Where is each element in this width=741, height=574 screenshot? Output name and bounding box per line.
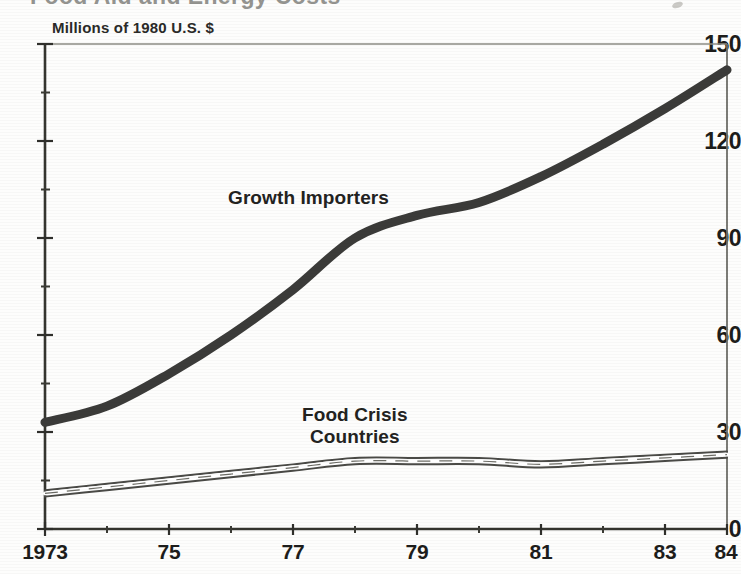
series-band-food-crisis-countries bbox=[45, 451, 727, 496]
plot-area bbox=[0, 0, 741, 574]
series-line-growth-importers bbox=[45, 70, 727, 422]
food-crisis-lower-edge bbox=[45, 458, 727, 497]
chart-figure: Food Aid and Energy Costs Millions of 19… bbox=[0, 0, 741, 574]
food-crisis-band-hatch bbox=[45, 455, 727, 494]
